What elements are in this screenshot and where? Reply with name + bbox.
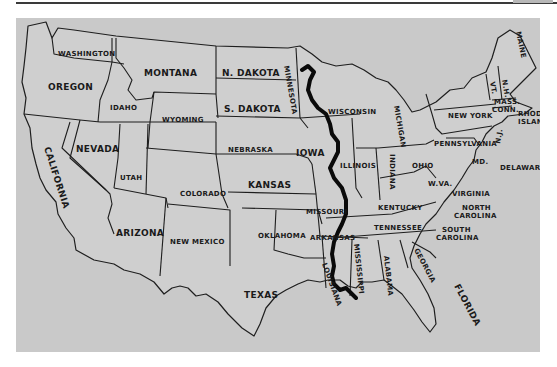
label-iowa: IOWA [296,148,325,158]
label-delaware: DELAWARE [500,164,540,172]
label-massachusetts: MASS. [494,98,520,106]
label-south-dakota: S. DAKOTA [224,104,281,114]
label-tennessee: TENNESSEE [374,224,422,232]
page-header-text [513,0,553,3]
label-wyoming: WYOMING [162,116,204,124]
label-new-york: NEW YORK [448,112,493,120]
label-oklahoma: OKLAHOMA [258,232,306,240]
label-nevada: NEVADA [76,144,119,154]
label-montana: MONTANA [144,68,197,78]
label-washington: WASHINGTON [58,50,115,58]
label-rhode-island-1: RHODE [518,110,540,118]
label-utah: UTAH [120,174,142,182]
us-map-panel: WASHINGTON OREGON CALIFORNIA NEVADA IDAH… [16,18,540,352]
label-virginia: VIRGINIA [452,190,490,198]
us-map: WASHINGTON OREGON CALIFORNIA NEVADA IDAH… [16,18,540,352]
label-south-carolina-2: CAROLINA [436,234,479,242]
label-ohio: OHIO [412,162,434,170]
label-nebraska: NEBRASKA [228,146,273,154]
label-kansas: KANSAS [248,180,291,190]
label-idaho: IDAHO [110,104,137,112]
label-pennsylvania: PENNSYLVANIA [434,140,497,148]
label-north-carolina-1: NORTH [462,204,491,212]
label-north-carolina-2: CAROLINA [454,212,497,220]
label-south-carolina-1: SOUTH [442,226,471,234]
label-connecticut: CONN. [492,106,519,114]
label-new-mexico: NEW MEXICO [170,238,225,246]
label-wisconsin: WISCONSIN [328,108,377,116]
label-rhode-island-2: ISLAND [518,118,540,126]
label-texas: TEXAS [244,290,278,300]
label-indiana: INDIANA [388,154,396,190]
label-florida: FLORIDA [452,282,482,327]
label-missouri: MISSOURI [306,208,347,216]
label-maryland: MD. [472,158,488,166]
label-arizona: ARIZONA [116,228,164,238]
label-arkansas: ARKANSAS [310,234,355,242]
label-illinois: ILLINOIS [340,162,376,170]
label-north-dakota: N. DAKOTA [222,68,280,78]
page-header-rule [16,2,557,4]
label-west-virginia: W.VA. [428,180,452,188]
label-colorado: COLORADO [180,190,226,198]
label-new-jersey: N.J. [494,128,504,144]
label-oregon: OREGON [48,82,93,92]
label-kentucky: KENTUCKY [378,204,423,212]
